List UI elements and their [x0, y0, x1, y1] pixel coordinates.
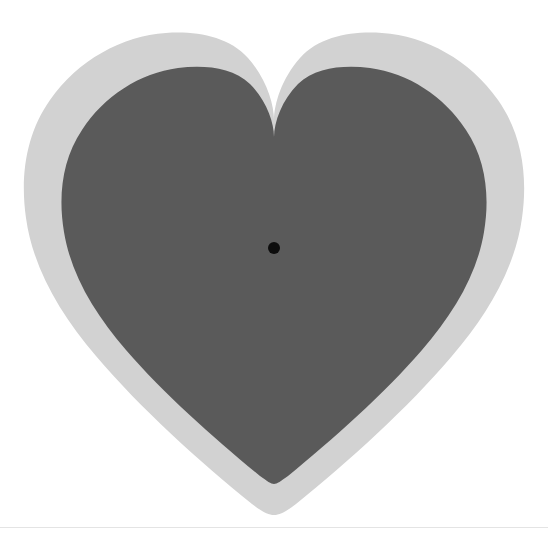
center-marker-dot	[268, 242, 280, 254]
figure-canvas	[0, 0, 548, 536]
heart-figure-svg	[0, 0, 548, 536]
footer-area	[0, 528, 548, 536]
